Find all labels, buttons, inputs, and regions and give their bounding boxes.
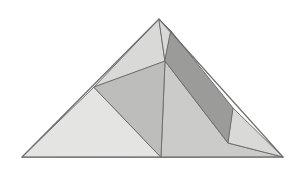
triangle-diagram (0, 0, 304, 171)
figure-container (0, 0, 304, 171)
